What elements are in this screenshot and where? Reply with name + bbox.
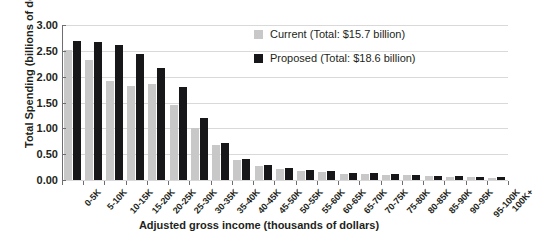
bar-current — [318, 172, 326, 180]
bar-group — [191, 25, 212, 180]
y-axis-tick-label: 1.50 — [18, 97, 58, 109]
legend-label: Proposed (Total: $18.6 billion) — [270, 52, 416, 64]
bar-proposed — [476, 177, 484, 180]
bar-proposed — [497, 177, 505, 180]
legend-item: Current (Total: $15.7 billion) — [254, 28, 416, 40]
x-axis-tick-label: 0-5K — [82, 187, 102, 208]
bar-current — [425, 176, 433, 180]
x-axis-tick-mark — [317, 181, 318, 185]
bar-current — [212, 145, 220, 180]
x-axis-tick-mark — [83, 181, 84, 185]
x-axis-tick-mark — [444, 181, 445, 185]
x-axis-tick-label: 10-15K — [128, 187, 155, 216]
bar-proposed — [221, 143, 229, 180]
bar-group — [446, 25, 467, 180]
y-axis-ticks: 0.000.501.001.502.002.503.00 — [14, 25, 58, 180]
bar-proposed — [136, 54, 144, 180]
bar-current — [85, 60, 93, 180]
y-axis-tick-label: 3.00 — [18, 19, 58, 31]
bar-proposed — [285, 168, 293, 180]
x-axis-tick-mark — [381, 181, 382, 185]
bar-current — [467, 177, 475, 180]
x-axis-tick-mark — [359, 181, 360, 185]
bar-proposed — [94, 42, 102, 180]
bar-proposed — [73, 41, 81, 181]
chart-legend: Current (Total: $15.7 billion)Proposed (… — [254, 28, 416, 76]
legend-label: Current (Total: $15.7 billion) — [270, 28, 405, 40]
bar-group — [488, 25, 509, 180]
bar-proposed — [115, 45, 123, 180]
x-axis-tick-mark — [296, 181, 297, 185]
bar-current — [64, 50, 72, 180]
y-axis-tick-mark — [62, 25, 66, 26]
x-axis-title: Adjusted gross income (thousands of doll… — [0, 219, 518, 231]
y-axis-tick-mark — [62, 154, 66, 155]
bar-group — [170, 25, 191, 180]
bar-current — [382, 175, 390, 180]
y-axis-tick-label: 0.00 — [18, 174, 58, 186]
x-axis-tick-mark — [168, 181, 169, 185]
bar-proposed — [157, 68, 165, 180]
bar-proposed — [391, 174, 399, 180]
x-axis-tick-mark — [232, 181, 233, 185]
bar-current — [488, 178, 496, 180]
bar-group — [127, 25, 148, 180]
x-axis-tick-mark — [62, 181, 63, 185]
bar-current — [170, 105, 178, 180]
bar-current — [127, 86, 135, 180]
legend-swatch-proposed — [254, 54, 263, 63]
x-axis-tick-label: 5-10K — [105, 187, 129, 212]
y-axis-tick-label: 1.00 — [18, 122, 58, 134]
y-axis-tick-mark — [62, 103, 66, 104]
bar-group — [212, 25, 233, 180]
x-axis-tick-mark — [466, 181, 467, 185]
bar-proposed — [412, 175, 420, 180]
bar-current — [446, 177, 454, 180]
bar-proposed — [455, 176, 463, 180]
x-axis-tick-mark — [147, 181, 148, 185]
y-axis-tick-mark — [62, 180, 66, 181]
bar-proposed — [179, 87, 187, 180]
bar-group — [425, 25, 446, 180]
bar-current — [191, 128, 199, 180]
bar-group — [64, 25, 85, 180]
y-axis-tick-label: 2.00 — [18, 71, 58, 83]
x-axis-tick-mark — [508, 181, 509, 185]
y-axis-tick-mark — [62, 77, 66, 78]
bar-current — [255, 166, 263, 180]
x-axis-tick-mark — [126, 181, 127, 185]
x-axis-tick-mark — [338, 181, 339, 185]
bar-proposed — [327, 171, 335, 180]
bar-proposed — [200, 118, 208, 180]
y-axis-tick-mark — [62, 128, 66, 129]
bar-group — [467, 25, 488, 180]
bar-group — [106, 25, 127, 180]
x-axis-tick-mark — [423, 181, 424, 185]
bar-current — [297, 171, 305, 180]
bar-proposed — [264, 165, 272, 181]
x-axis-tick-mark — [211, 181, 212, 185]
y-axis-tick-label: 0.50 — [18, 148, 58, 160]
bar-proposed — [242, 159, 250, 180]
bar-group — [148, 25, 169, 180]
bar-proposed — [349, 173, 357, 180]
x-axis-tick-mark — [189, 181, 190, 185]
x-axis-tick-mark — [253, 181, 254, 185]
bar-group — [85, 25, 106, 180]
bar-group — [233, 25, 254, 180]
bar-proposed — [306, 170, 314, 180]
bar-current — [340, 174, 348, 180]
y-axis-tick-label: 2.50 — [18, 45, 58, 57]
bar-current — [403, 175, 411, 180]
x-axis-tick-mark — [487, 181, 488, 185]
x-axis-tick-mark — [274, 181, 275, 185]
bar-proposed — [370, 173, 378, 180]
legend-swatch-current — [254, 30, 263, 39]
y-axis-tick-mark — [62, 51, 66, 52]
bar-current — [276, 169, 284, 180]
bar-proposed — [434, 176, 442, 180]
legend-item: Proposed (Total: $18.6 billion) — [254, 52, 416, 64]
x-axis-tick-mark — [104, 181, 105, 185]
bar-current — [106, 81, 114, 180]
